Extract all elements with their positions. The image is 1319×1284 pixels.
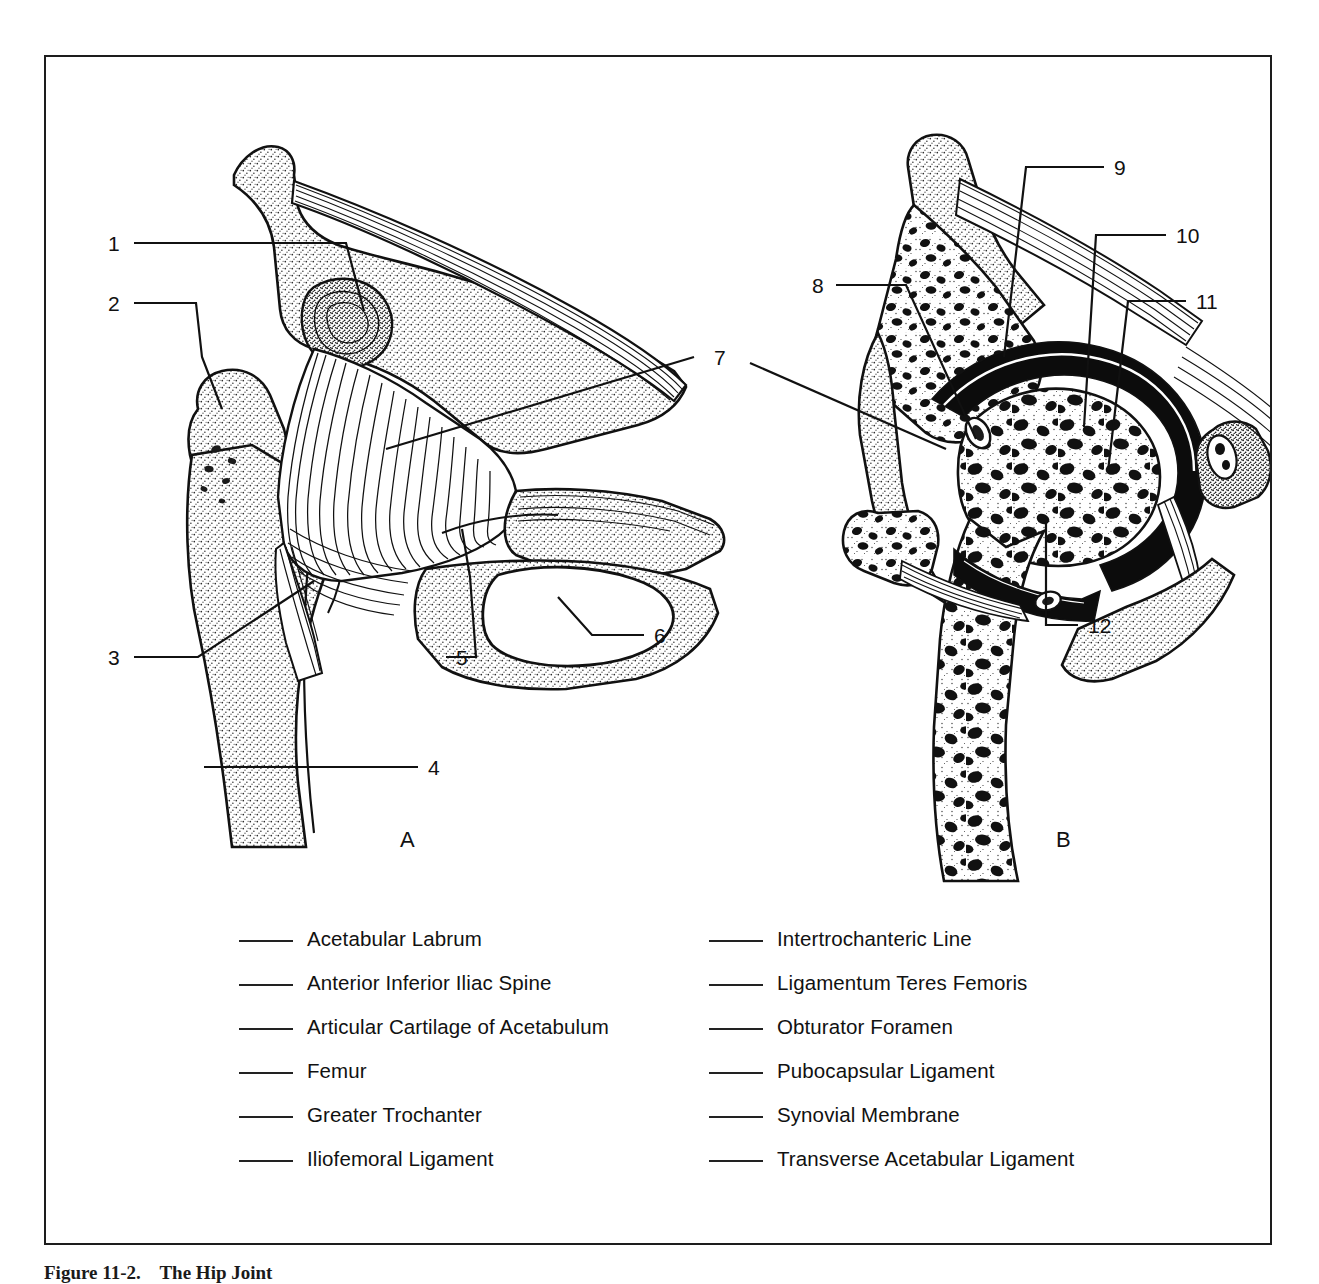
answer-label: Pubocapsular Ligament: [777, 1059, 995, 1083]
callout-2: 2: [108, 293, 120, 314]
answer-label: Articular Cartilage of Acetabulum: [307, 1015, 609, 1039]
callout-11: 11: [1196, 291, 1218, 312]
answer-blank[interactable]: [709, 1159, 763, 1162]
cut-bone-cylinder-b: [1196, 422, 1270, 509]
answer-row[interactable]: Iliofemoral Ligament: [239, 1147, 709, 1191]
answer-list: Acetabular Labrum Anterior Inferior Ilia…: [239, 927, 1249, 1191]
callout-5: 5: [456, 647, 468, 668]
callout-1: 1: [108, 233, 120, 254]
answer-blank[interactable]: [709, 1115, 763, 1118]
answer-label: Ligamentum Teres Femoris: [777, 971, 1027, 995]
answer-label: Transverse Acetabular Ligament: [777, 1147, 1074, 1171]
answer-label: Greater Trochanter: [307, 1103, 482, 1127]
answer-blank[interactable]: [239, 939, 293, 942]
answer-row[interactable]: Greater Trochanter: [239, 1103, 709, 1147]
answer-blank[interactable]: [709, 983, 763, 986]
answer-blank[interactable]: [709, 939, 763, 942]
obturator-foramen: [483, 567, 674, 666]
subfigure-letter-a: A: [400, 827, 415, 852]
figure-caption-title: The Hip Joint: [159, 1262, 272, 1283]
callout-4: 4: [428, 757, 440, 778]
answer-blank[interactable]: [709, 1027, 763, 1030]
callout-7: 7: [714, 347, 726, 368]
figure-caption-number: Figure 11-2.: [44, 1262, 141, 1283]
answer-row[interactable]: Anterior Inferior Iliac Spine: [239, 971, 709, 1015]
answer-column-right: Intertrochanteric Line Ligamentum Teres …: [709, 927, 1179, 1191]
answer-label: Acetabular Labrum: [307, 927, 482, 951]
callout-8: 8: [812, 275, 824, 296]
answer-row[interactable]: Pubocapsular Ligament: [709, 1059, 1179, 1103]
answer-row[interactable]: Ligamentum Teres Femoris: [709, 971, 1179, 1015]
callout-12: 12: [1088, 615, 1111, 636]
answer-row[interactable]: Obturator Foramen: [709, 1015, 1179, 1059]
answer-row[interactable]: Articular Cartilage of Acetabulum: [239, 1015, 709, 1059]
panel-a-artwork: A: [187, 146, 724, 852]
answer-row[interactable]: Intertrochanteric Line: [709, 927, 1179, 971]
callout-3: 3: [108, 647, 120, 668]
callout-10: 10: [1176, 225, 1199, 246]
answer-blank[interactable]: [239, 1027, 293, 1030]
answer-label: Obturator Foramen: [777, 1015, 953, 1039]
answer-label: Intertrochanteric Line: [777, 927, 972, 951]
answer-label: Iliofemoral Ligament: [307, 1147, 494, 1171]
answer-label: Femur: [307, 1059, 367, 1083]
figure-caption: Figure 11-2. The Hip Joint: [44, 1262, 272, 1284]
answer-label: Anterior Inferior Iliac Spine: [307, 971, 551, 995]
answer-row[interactable]: Synovial Membrane: [709, 1103, 1179, 1147]
subfigure-letter-b: B: [1056, 827, 1071, 852]
answer-blank[interactable]: [709, 1071, 763, 1074]
answer-row[interactable]: Transverse Acetabular Ligament: [709, 1147, 1179, 1191]
answer-blank[interactable]: [239, 1115, 293, 1118]
callout-6: 6: [654, 625, 666, 646]
answer-blank[interactable]: [239, 1071, 293, 1074]
answer-column-left: Acetabular Labrum Anterior Inferior Ilia…: [239, 927, 709, 1191]
answer-blank[interactable]: [239, 1159, 293, 1162]
answer-blank[interactable]: [239, 983, 293, 986]
callout-9: 9: [1114, 157, 1126, 178]
panel-b-artwork: B: [843, 135, 1270, 881]
answer-label: Synovial Membrane: [777, 1103, 960, 1127]
answer-row[interactable]: Femur: [239, 1059, 709, 1103]
answer-row[interactable]: Acetabular Labrum: [239, 927, 709, 971]
figure-frame: A: [44, 55, 1272, 1245]
